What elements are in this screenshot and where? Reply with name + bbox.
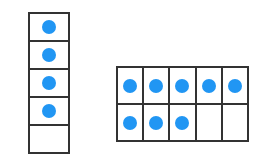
- frame-cell: [29, 41, 69, 69]
- counter-dot: [42, 104, 56, 118]
- frame-cell: [222, 104, 248, 141]
- counter-dot: [42, 76, 56, 90]
- frame-cell: [29, 69, 69, 97]
- frame-cell: [196, 104, 222, 141]
- counter-dot: [42, 48, 56, 62]
- frame-cell: [29, 125, 69, 153]
- counter-dot: [42, 20, 56, 34]
- frame-cell: [29, 97, 69, 125]
- frame-cell: [169, 67, 195, 104]
- frame-cell: [222, 67, 248, 104]
- frame-cell: [169, 104, 195, 141]
- counter-dot: [175, 116, 189, 130]
- counter-dot: [228, 79, 242, 93]
- frame-cell: [196, 67, 222, 104]
- five-frame: [28, 12, 70, 154]
- counter-dot: [149, 79, 163, 93]
- counter-dot: [202, 79, 216, 93]
- counter-dot: [149, 116, 163, 130]
- ten-frame: [116, 66, 249, 142]
- counter-dot: [123, 79, 137, 93]
- frame-cell: [143, 67, 169, 104]
- frame-cell: [117, 104, 143, 141]
- frame-cell: [29, 13, 69, 41]
- counter-dot: [175, 79, 189, 93]
- frame-cell: [143, 104, 169, 141]
- counter-dot: [123, 116, 137, 130]
- frame-cell: [117, 67, 143, 104]
